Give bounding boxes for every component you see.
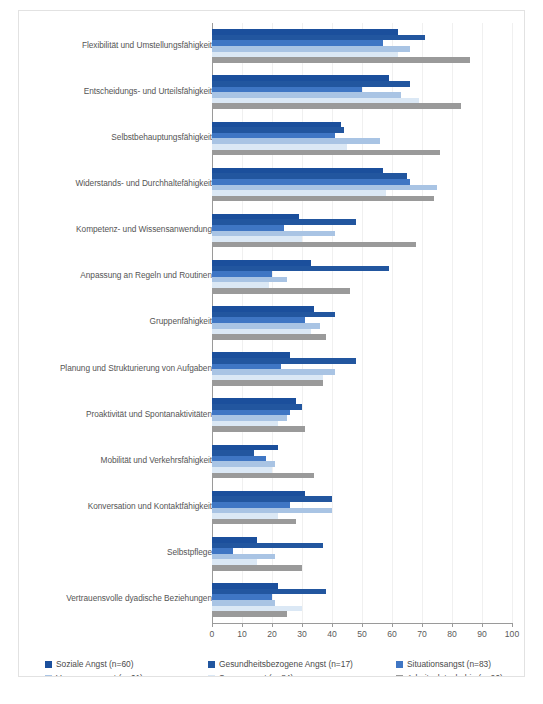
axis-tick: [482, 623, 483, 627]
axis-tick: [452, 623, 453, 627]
bar-group: [212, 346, 525, 392]
plot-area: Flexibilität und UmstellungsfähigkeitEnt…: [19, 23, 525, 623]
bar: [212, 334, 326, 340]
axis-tick-label: 70: [417, 629, 427, 639]
category-label: Anpassung an Regeln und Routinen: [32, 271, 212, 281]
legend-item[interactable]: Arbeitsplatzphobie (n=26): [396, 673, 503, 677]
chart-legend: Soziale Angst (n=60)Gesundheitsbezogene …: [45, 659, 515, 677]
axis-tick: [212, 623, 213, 627]
axis-tick-label: 20: [267, 629, 277, 639]
legend-item[interactable]: Soziale Angst (n=60): [45, 659, 134, 669]
category-label: Planung und Strukturierung von Aufgaben: [32, 364, 212, 374]
axis-tick: [272, 623, 273, 627]
legend-item[interactable]: Situationsangst (n=83): [396, 659, 491, 669]
bar: [212, 519, 296, 525]
axis-tick: [332, 623, 333, 627]
legend-item[interactable]: Versagensangst (n=61): [45, 673, 143, 677]
category-row: Mobilität und Verkehrsfähigkeit: [19, 438, 525, 484]
axis-tick-label: 10: [237, 629, 247, 639]
bar-group: [212, 69, 525, 115]
bar: [212, 150, 440, 156]
category-label: Flexibilität und Umstellungsfähigkeit: [32, 41, 212, 51]
legend-label: Arbeitsplatzphobie (n=26): [407, 673, 503, 677]
axis-tick: [302, 623, 303, 627]
chart-figure: Flexibilität und UmstellungsfähigkeitEnt…: [18, 10, 525, 677]
category-row: Planung und Strukturierung von Aufgaben: [19, 346, 525, 392]
category-label: Mobilität und Verkehrsfähigkeit: [32, 456, 212, 466]
legend-swatch-icon: [208, 675, 215, 678]
axis-tick-label: 100: [505, 629, 519, 639]
category-row: Kompetenz- und Wissensanwendung: [19, 208, 525, 254]
legend-label: Soziale Angst (n=60): [56, 659, 134, 669]
axis-tick-label: 80: [447, 629, 457, 639]
category-label: Vertrauensvolle dyadische Beziehungen: [32, 594, 212, 604]
category-label: Selbstpflege: [32, 548, 212, 558]
legend-label: Situationsangst (n=83): [407, 659, 491, 669]
bar-group: [212, 254, 525, 300]
axis-tick-label: 0: [210, 629, 215, 639]
legend-swatch-icon: [208, 661, 215, 668]
legend-swatch-icon: [396, 661, 403, 668]
bar: [212, 380, 323, 386]
category-row: Anpassung an Regeln und Routinen: [19, 254, 525, 300]
axis-tick-label: 50: [357, 629, 367, 639]
bar-group: [212, 161, 525, 207]
category-row: Entscheidungs- und Urteilsfähigkeit: [19, 69, 525, 115]
bar: [212, 288, 350, 294]
axis-tick: [512, 623, 513, 627]
axis-tick: [362, 623, 363, 627]
axis-tick-label: 30: [297, 629, 307, 639]
bar-group: [212, 23, 525, 69]
bar-group: [212, 531, 525, 577]
x-axis: 0102030405060708090100: [212, 623, 512, 651]
bar-group: [212, 392, 525, 438]
category-row: Widerstands- und Durchhaltefähigkeit: [19, 161, 525, 207]
legend-row: Versagensangst (n=61)Sorgenangst (n=84)A…: [45, 673, 515, 677]
bar: [212, 611, 287, 617]
axis-tick: [392, 623, 393, 627]
category-label: Entscheidungs- und Urteilsfähigkeit: [32, 87, 212, 97]
legend-item[interactable]: Gesundheitsbezogene Angst (n=17): [208, 659, 353, 669]
axis-tick-label: 40: [327, 629, 337, 639]
category-label: Widerstands- und Durchhaltefähigkeit: [32, 179, 212, 189]
category-label: Selbstbehauptungsfähigkeit: [32, 133, 212, 143]
category-label: Proaktivität und Spontanaktivitäten: [32, 410, 212, 420]
category-label: Kompetenz- und Wissensanwendung: [32, 225, 212, 235]
category-label: Gruppenfähigkeit: [32, 317, 212, 327]
category-row: Proaktivität und Spontanaktivitäten: [19, 392, 525, 438]
bar: [212, 196, 434, 202]
legend-label: Versagensangst (n=61): [56, 673, 143, 677]
category-row: Gruppenfähigkeit: [19, 300, 525, 346]
category-row: Flexibilität und Umstellungsfähigkeit: [19, 23, 525, 69]
bar-group: [212, 208, 525, 254]
category-row: Selbstpflege: [19, 531, 525, 577]
bar: [212, 242, 416, 248]
bar: [212, 473, 314, 479]
legend-row: Soziale Angst (n=60)Gesundheitsbezogene …: [45, 659, 515, 673]
legend-label: Gesundheitsbezogene Angst (n=17): [219, 659, 353, 669]
legend-swatch-icon: [45, 675, 52, 678]
bar: [212, 565, 302, 571]
legend-label: Sorgenangst (n=84): [219, 673, 293, 677]
legend-item[interactable]: Sorgenangst (n=84): [208, 673, 293, 677]
bar-group: [212, 438, 525, 484]
axis-tick: [422, 623, 423, 627]
category-row: Selbstbehauptungsfähigkeit: [19, 115, 525, 161]
bar: [212, 426, 305, 432]
bar: [212, 103, 461, 109]
category-label: Konversation und Kontaktfähigkeit: [32, 502, 212, 512]
bar-group: [212, 485, 525, 531]
bar-group: [212, 577, 525, 623]
bar-group: [212, 300, 525, 346]
bar: [212, 57, 470, 63]
axis-tick-label: 60: [387, 629, 397, 639]
legend-swatch-icon: [396, 675, 403, 678]
axis-tick-label: 90: [477, 629, 487, 639]
category-row: Vertrauensvolle dyadische Beziehungen: [19, 577, 525, 623]
axis-tick: [242, 623, 243, 627]
bar-group: [212, 115, 525, 161]
category-row: Konversation und Kontaktfähigkeit: [19, 485, 525, 531]
legend-swatch-icon: [45, 661, 52, 668]
